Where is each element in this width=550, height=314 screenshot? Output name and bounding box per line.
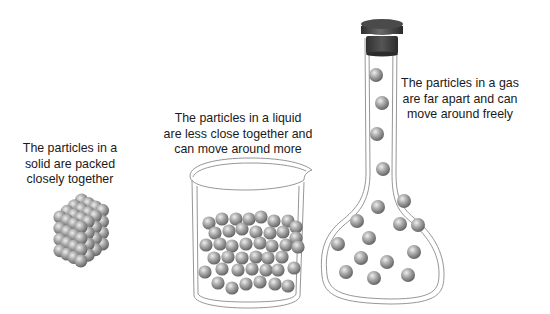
particle (411, 218, 425, 232)
particle (371, 200, 385, 214)
particle (331, 237, 345, 251)
particle (245, 262, 258, 275)
particle (249, 250, 262, 263)
particle (211, 276, 224, 289)
particle (367, 271, 381, 285)
particle (279, 238, 292, 251)
particle (225, 281, 238, 294)
flask-stopper (361, 19, 403, 57)
particle (370, 127, 384, 141)
particle (369, 68, 383, 82)
particle (275, 250, 288, 263)
particle (393, 217, 407, 231)
particle (281, 279, 294, 292)
particle (291, 240, 304, 253)
particle (380, 255, 394, 269)
particle (287, 261, 300, 274)
particle (222, 224, 235, 237)
particle (354, 251, 368, 265)
particle (261, 251, 274, 264)
particle (199, 238, 212, 251)
particle (253, 275, 266, 288)
particle (215, 262, 228, 275)
particle (235, 251, 248, 264)
particle (259, 263, 272, 276)
particle (253, 236, 266, 249)
particle (375, 96, 389, 110)
particle (268, 277, 281, 290)
particle (231, 263, 244, 276)
particle (362, 231, 376, 245)
gas-particles (331, 68, 425, 285)
particle (235, 222, 248, 235)
diagram-artwork (0, 0, 550, 314)
particle (265, 239, 278, 252)
particle (339, 265, 353, 279)
particle (198, 265, 211, 278)
particle (254, 210, 267, 223)
solid-particle-lattice (53, 194, 109, 268)
particle (213, 237, 226, 250)
particle (407, 245, 421, 259)
particle (401, 268, 415, 282)
particle (221, 250, 234, 263)
particle (376, 162, 390, 176)
particle (263, 226, 276, 239)
particle (239, 277, 252, 290)
particle (207, 251, 220, 264)
particle (239, 237, 252, 250)
liquid-particles (198, 210, 304, 294)
particle (267, 214, 280, 227)
particle (215, 212, 228, 225)
particle (74, 254, 87, 267)
particle (276, 225, 289, 238)
particle (350, 214, 364, 228)
particle (397, 194, 411, 208)
particle (271, 263, 284, 276)
